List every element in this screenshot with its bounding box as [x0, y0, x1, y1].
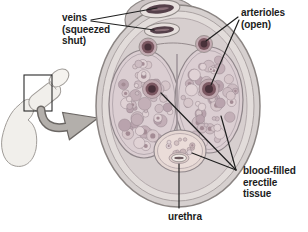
anatomy-figure: veins (squeezed shut) arterioles (open) … [0, 0, 308, 232]
veins-label: veins (squeezed shut) [62, 12, 110, 47]
location-inset [2, 65, 98, 166]
urethra-label: urethra [162, 211, 208, 223]
cross-section [91, 0, 260, 208]
central-artery-left [143, 80, 162, 99]
urethra-opening [169, 153, 189, 164]
scrotum-sketch [2, 99, 37, 166]
corpus-spongiosum [154, 130, 206, 172]
arterioles-label: arterioles (open) [241, 7, 285, 30]
arteriole-left [139, 38, 157, 56]
central-artery-right [199, 79, 219, 99]
erectile-tissue-label: blood-filled erectile tissue [243, 165, 308, 200]
